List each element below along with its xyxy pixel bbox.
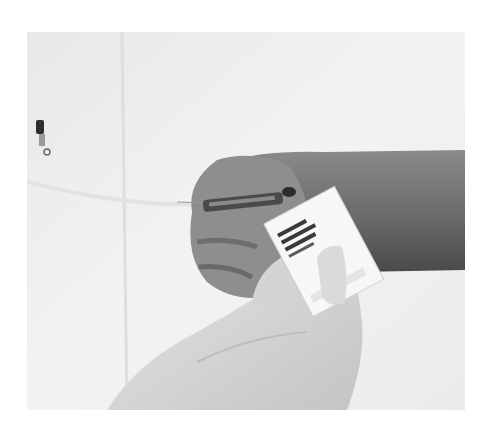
photo-scene (27, 32, 465, 410)
photograph (27, 32, 465, 410)
